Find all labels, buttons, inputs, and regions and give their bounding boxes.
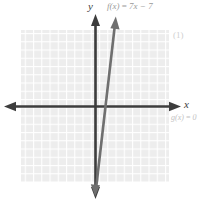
function-g-label: g(x) = 0 bbox=[171, 114, 196, 122]
function-g-body: 0 bbox=[192, 113, 196, 122]
y-axis-label: y bbox=[88, 1, 93, 12]
function-f-label: f(x) = 7x − 7 bbox=[107, 2, 153, 11]
function-f-body: 7x − 7 bbox=[129, 1, 153, 11]
function-f-name: f(x) bbox=[107, 1, 120, 11]
function-f-equals: = bbox=[120, 1, 130, 11]
x-axis-label: x bbox=[184, 99, 189, 110]
figure-marker: (1) bbox=[173, 31, 184, 40]
graph-figure: y x f(x) = 7x − 7 g(x) = 0 (1) bbox=[0, 0, 218, 203]
function-g-name: g(x) bbox=[171, 113, 184, 122]
